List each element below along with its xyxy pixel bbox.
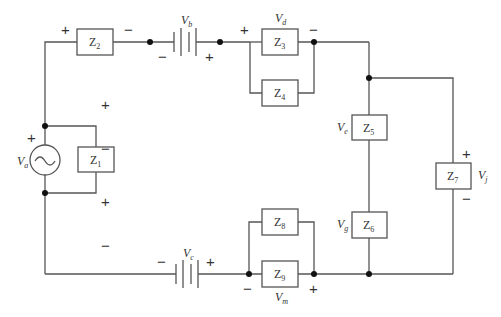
battery-vc	[176, 260, 198, 288]
label-vm: Vm	[275, 290, 288, 306]
label-va: Va	[17, 154, 28, 170]
label-vj: Vj	[478, 168, 488, 184]
label-vb: Vb	[181, 13, 192, 29]
impedance-z5: Z5	[352, 115, 387, 140]
svg-text:+: +	[206, 253, 215, 270]
svg-text:−: −	[124, 21, 133, 38]
svg-text:+: +	[309, 280, 318, 297]
label-ve: Ve	[337, 120, 348, 136]
impedance-z2: Z2	[77, 29, 113, 55]
svg-text:−: −	[101, 140, 110, 157]
battery-vb	[174, 28, 196, 56]
svg-text:−: −	[309, 21, 318, 38]
svg-text:+: +	[27, 129, 36, 146]
impedance-z7: Z7	[436, 163, 471, 189]
label-vd: Vd	[275, 11, 287, 27]
ac-source-icon	[30, 145, 60, 175]
svg-text:−: −	[462, 190, 471, 207]
svg-text:−: −	[101, 237, 110, 254]
label-vc: Vc	[183, 246, 194, 262]
svg-text:+: +	[205, 48, 214, 65]
impedance-z6: Z6	[352, 212, 387, 238]
impedance-z8: Z8	[262, 209, 298, 235]
svg-text:+: +	[240, 21, 249, 38]
impedance-z9: Z9	[262, 261, 298, 287]
circuit-diagram: Z2 Z1 Z3 Z4 Z5 Z6 Z7 Z8 Z9	[0, 0, 501, 317]
svg-text:+: +	[101, 96, 110, 113]
svg-text:+: +	[462, 145, 471, 162]
svg-text:−: −	[243, 280, 252, 297]
impedance-z4: Z4	[262, 80, 298, 106]
svg-text:−: −	[158, 48, 167, 65]
svg-text:+: +	[61, 21, 70, 38]
label-vg: Vg	[337, 217, 348, 233]
impedance-z3: Z3	[262, 29, 298, 55]
svg-text:+: +	[101, 193, 110, 210]
svg-text:−: −	[157, 253, 166, 270]
